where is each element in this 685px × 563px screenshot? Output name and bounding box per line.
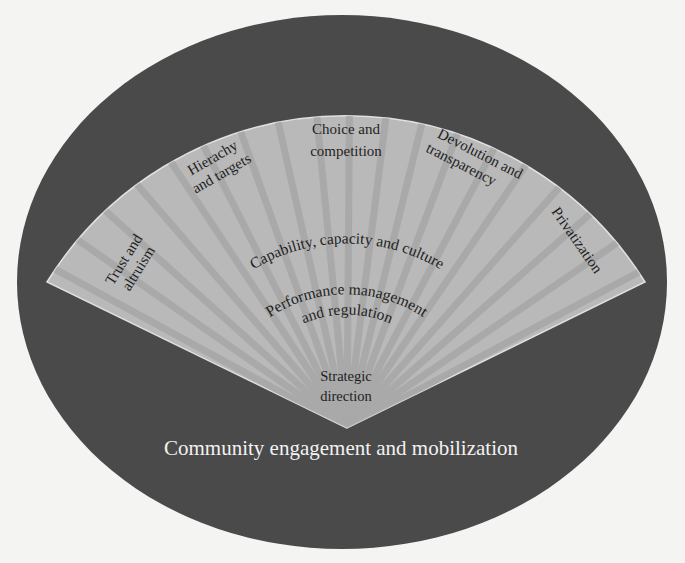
band-label-line: direction [320, 388, 372, 404]
diagram-canvas: Trust and altruism Hierachy and targets … [0, 0, 685, 563]
outer-ring-label: Community engagement and mobilization [164, 436, 519, 460]
segment-label-line: Choice and [312, 121, 380, 137]
segment-label-line: competition [310, 143, 382, 159]
band-label-line: Strategic [320, 368, 372, 384]
